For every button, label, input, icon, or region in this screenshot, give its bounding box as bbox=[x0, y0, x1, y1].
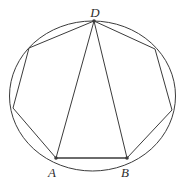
vertex-dot-B bbox=[125, 156, 129, 160]
vertex-label-A: A bbox=[47, 165, 56, 180]
vertex-label-B: B bbox=[121, 165, 129, 180]
circle-heptagon-triangle-diagram: DAB bbox=[0, 0, 184, 184]
geometry-figure: DAB bbox=[0, 0, 184, 184]
vertex-label-D: D bbox=[89, 5, 100, 20]
vertex-dot-A bbox=[54, 156, 58, 160]
